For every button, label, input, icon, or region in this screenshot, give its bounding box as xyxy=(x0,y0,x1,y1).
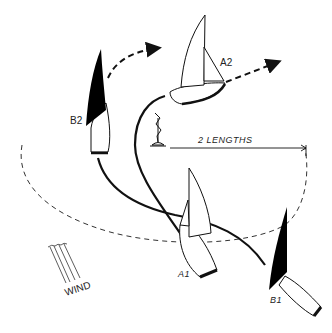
boat-a2-label: A2 xyxy=(220,57,233,68)
wind-label: WIND xyxy=(63,279,92,298)
mark-icon xyxy=(150,113,166,146)
boat-a1-label: A1 xyxy=(177,269,190,279)
boat-b2 xyxy=(86,49,110,153)
boat-a2 xyxy=(170,15,225,104)
arrow-b2 xyxy=(108,48,158,78)
zone-circle xyxy=(21,145,307,242)
wind-icon xyxy=(48,243,80,283)
boat-a1 xyxy=(180,168,217,277)
boat-b1-label: B1 xyxy=(270,295,282,305)
sailing-diagram: 2 LENGTHS B2 A2 xyxy=(0,0,332,333)
zone-label: 2 LENGTHS xyxy=(197,135,253,145)
boat-b2-label: B2 xyxy=(70,115,83,126)
diagram-svg: 2 LENGTHS B2 A2 xyxy=(0,0,332,333)
arrow-a2 xyxy=(226,62,278,82)
